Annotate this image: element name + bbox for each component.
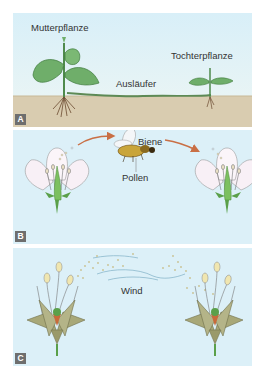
- right-flower-icon: [195, 148, 252, 214]
- label-pollen: Pollen: [122, 172, 148, 183]
- panel-b-insect-pollination: Biene Pollen B: [13, 130, 252, 244]
- label-wind: Wind: [121, 285, 143, 296]
- panel-badge-a: A: [15, 114, 26, 125]
- label-bee: Biene: [138, 136, 162, 147]
- arrow-to-bee: [78, 136, 111, 145]
- bee-pollination-illustration: [13, 130, 252, 244]
- wind-lines: [93, 256, 185, 280]
- left-grass-flower-icon: [27, 262, 85, 356]
- label-mother-plant: Mutterpflanze: [31, 22, 89, 33]
- panel-c-wind-pollination: Wind C: [13, 248, 252, 366]
- panel-badge-c: C: [15, 353, 26, 364]
- panel-badge-b: B: [15, 231, 26, 242]
- left-flower-icon: [25, 147, 89, 214]
- right-grass-flower-icon: [185, 262, 243, 356]
- wind-pollination-illustration: [13, 248, 252, 366]
- panel-a-runner: Mutterpflanze Ausläufer Tochterpflanze A: [13, 13, 252, 127]
- label-runner: Ausläufer: [116, 78, 156, 89]
- label-daughter-plant: Tochterpflanze: [171, 50, 233, 61]
- arrow-to-flower: [165, 140, 196, 150]
